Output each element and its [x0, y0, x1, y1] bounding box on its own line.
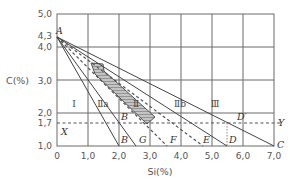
- y-tick-2-0: 2,0: [38, 108, 53, 118]
- y-tick-4-3: 4,3: [38, 31, 52, 41]
- line-a-c: [57, 37, 274, 146]
- line-a-d: [57, 37, 227, 146]
- y-tick-4-0: 4,0: [38, 42, 53, 52]
- x-tick-6: 6,0: [236, 151, 251, 161]
- point-c-label: C: [277, 139, 285, 150]
- point-x-label: X: [60, 126, 69, 137]
- point-y-label: Y: [278, 117, 286, 128]
- region-ii-label: Ⅱ: [133, 99, 139, 109]
- y-tick-1-7: 1,7: [38, 118, 52, 128]
- point-labels: A B B G F E D D′ C X Y: [55, 25, 286, 150]
- region-i-label: Ⅰ: [72, 99, 76, 109]
- region-iib-label: Ⅱb: [174, 99, 186, 109]
- x-axis-ticks: 0 1,0 2,0 3,0 4,0 5,0 6,0 7,0: [54, 151, 281, 161]
- x-tick-5: 5,0: [205, 151, 220, 161]
- region-iia-label: Ⅱa: [97, 99, 109, 109]
- x-tick-3: 3,0: [143, 151, 158, 161]
- y-tick-3-0: 3,0: [38, 76, 53, 86]
- point-d-prime-label: D′: [236, 111, 248, 122]
- y-axis-title: C(%): [6, 75, 29, 86]
- x-tick-0: 0: [54, 151, 60, 161]
- rays-from-a: [57, 37, 274, 146]
- x-axis-title: Si(%): [147, 166, 172, 177]
- point-g-label: G: [139, 134, 147, 145]
- x-tick-2: 2,0: [112, 151, 127, 161]
- x-tick-7: 7,0: [267, 151, 282, 161]
- y-tick-5-0: 5,0: [38, 9, 53, 19]
- point-a-label: A: [55, 25, 63, 36]
- y-tick-1-0: 1,0: [38, 141, 53, 151]
- region-iii-label: Ⅲ: [211, 99, 220, 109]
- x-tick-1: 1,0: [81, 151, 96, 161]
- point-e-label: E: [202, 134, 210, 145]
- point-f-label: F: [169, 134, 177, 145]
- x-tick-4: 4,0: [174, 151, 189, 161]
- grid: [57, 14, 274, 146]
- maurer-diagram: 5,0 4,3 4,0 3,0 2,0 1,7 1,0 C(%) 0 1,0 2…: [0, 0, 290, 187]
- point-b-lower-label: B: [120, 134, 128, 145]
- point-d-label: D: [228, 134, 237, 145]
- y-axis-ticks: 5,0 4,3 4,0 3,0 2,0 1,7 1,0: [38, 9, 53, 151]
- point-b-upper-label: B: [120, 111, 128, 122]
